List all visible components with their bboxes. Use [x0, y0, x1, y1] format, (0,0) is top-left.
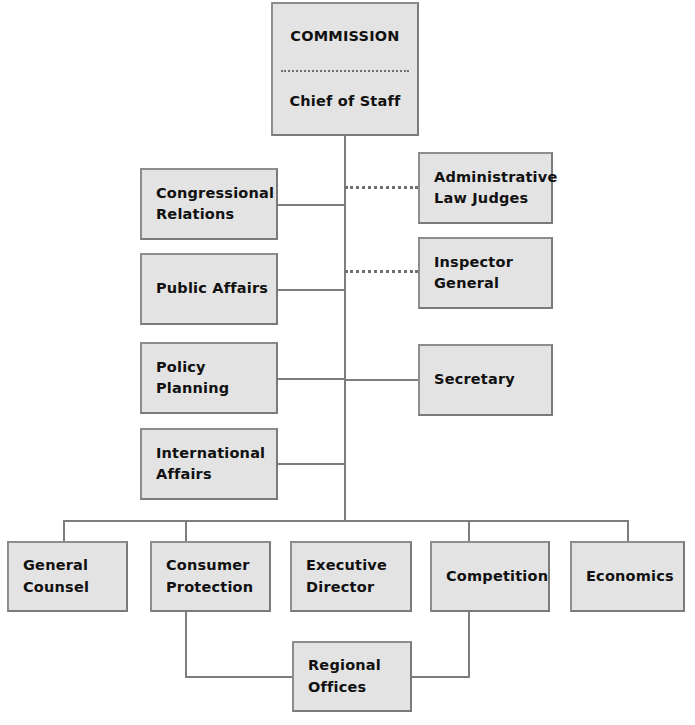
node-chief-of-staff-label: Chief of Staff — [289, 91, 400, 112]
connector-competition-regional-vertical — [468, 612, 470, 678]
node-label-line1: Congressional — [156, 183, 274, 204]
node-label-line1: Executive — [306, 555, 387, 576]
node-label-line1: Administrative — [434, 167, 557, 188]
node-label-line1: Economics — [586, 566, 674, 587]
node-congressional-relations[interactable]: Congressional Relations — [140, 168, 278, 240]
node-label-line1: International — [156, 443, 265, 464]
node-executive-director[interactable]: Executive Director — [290, 541, 412, 612]
node-chief-of-staff-bottom: Chief of Staff — [273, 69, 417, 134]
node-label-line2: Law Judges — [434, 188, 528, 209]
connector-congressional-relations — [277, 204, 346, 206]
node-economics[interactable]: Economics — [570, 541, 685, 612]
connector-administrative-law-judges-dashed — [345, 186, 418, 189]
org-chart: COMMISSION Chief of Staff Congressional … — [0, 0, 695, 725]
node-commission-label: COMMISSION — [290, 26, 399, 47]
node-label-line1: Consumer — [166, 555, 250, 576]
node-label-line1: Inspector — [434, 252, 513, 273]
connector-drop-consumer-protection — [185, 520, 187, 542]
node-international-affairs[interactable]: International Affairs — [140, 428, 278, 500]
connector-policy-planning — [277, 378, 346, 380]
connector-drop-economics — [627, 520, 629, 542]
node-label-line1: Secretary — [434, 369, 515, 390]
node-label-line2: Protection — [166, 577, 253, 598]
node-consumer-protection[interactable]: Consumer Protection — [150, 541, 271, 612]
connector-consumer-protection-regional-vertical — [185, 612, 187, 678]
connector-public-affairs — [277, 289, 346, 291]
node-public-affairs[interactable]: Public Affairs — [140, 253, 278, 325]
connector-competition-regional-horizontal — [411, 676, 470, 678]
node-label-line2: Director — [306, 577, 374, 598]
node-label-line1: Public Affairs — [156, 278, 268, 299]
connector-inspector-general-dashed — [345, 270, 418, 273]
node-secretary[interactable]: Secretary — [418, 344, 553, 416]
node-label-line2: General — [434, 273, 499, 294]
node-general-counsel[interactable]: General Counsel — [7, 541, 128, 612]
node-competition[interactable]: Competition — [430, 541, 550, 612]
commission-divider — [281, 70, 409, 72]
node-label-line2: Counsel — [23, 577, 89, 598]
node-label-line2: Affairs — [156, 464, 212, 485]
connector-secretary — [345, 379, 418, 381]
connector-consumer-protection-regional-horizontal — [185, 676, 293, 678]
node-regional-offices[interactable]: Regional Offices — [292, 641, 412, 712]
node-commission-top: COMMISSION — [273, 4, 417, 69]
node-commission[interactable]: COMMISSION Chief of Staff — [271, 2, 419, 136]
node-label-line1: Policy Planning — [156, 357, 276, 399]
node-label-line2: Relations — [156, 204, 234, 225]
connector-drop-general-counsel — [63, 520, 65, 542]
connector-international-affairs — [277, 463, 346, 465]
node-policy-planning[interactable]: Policy Planning — [140, 342, 278, 414]
node-label-line1: Competition — [446, 566, 548, 587]
node-label-line1: General — [23, 555, 88, 576]
connector-bottom-bar — [63, 520, 629, 522]
node-label-line2: Offices — [308, 677, 366, 698]
node-administrative-law-judges[interactable]: Administrative Law Judges — [418, 152, 553, 224]
node-label-line1: Regional — [308, 655, 381, 676]
connector-drop-competition — [468, 520, 470, 542]
node-inspector-general[interactable]: Inspector General — [418, 237, 553, 309]
